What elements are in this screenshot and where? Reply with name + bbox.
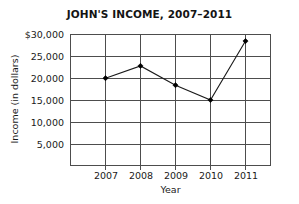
x-tick-label-2007: 2007	[86, 170, 126, 181]
x-tick-label-2010: 2010	[191, 170, 231, 181]
x-axis-title: Year	[70, 184, 271, 195]
x-tick-label-2009: 2009	[156, 170, 196, 181]
x-tick-label-2011: 2011	[226, 170, 266, 181]
chart-figure: JOHN'S INCOME, 2007–2011 Income (in doll…	[0, 0, 299, 204]
x-tick-label-2008: 2008	[121, 170, 161, 181]
